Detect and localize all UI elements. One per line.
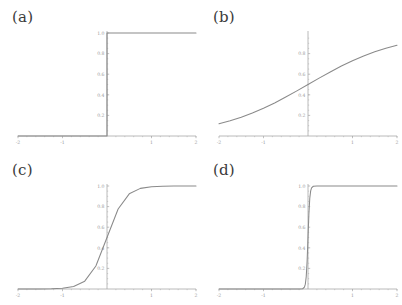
x-tick-label: 2	[396, 140, 399, 145]
x-tick-label: 1	[351, 140, 354, 145]
panel-c-plot: -2-1120.20.40.60.81.0	[0, 153, 201, 305]
x-tick-label: -2	[217, 293, 222, 298]
x-tick-label: -1	[261, 140, 266, 145]
x-tick-label: -2	[16, 140, 21, 145]
x-tick-label: 1	[150, 140, 153, 145]
x-tick-label: 1	[351, 293, 354, 298]
y-tick-label: 0.2	[298, 113, 305, 118]
x-tick-label: 2	[195, 140, 198, 145]
x-tick-label: -1	[60, 140, 65, 145]
y-tick-label: 0.6	[97, 225, 104, 230]
x-tick-label: -2	[217, 140, 222, 145]
panel-c: (c) -2-1120.20.40.60.81.0	[0, 153, 201, 305]
y-tick-label: 0.8	[298, 204, 305, 209]
x-tick-label: 2	[195, 293, 198, 298]
y-tick-label: 0.2	[298, 266, 305, 271]
panel-b: (b) -2-1120.20.40.60.8	[201, 0, 402, 152]
panel-b-plot: -2-1120.20.40.60.8	[201, 0, 402, 152]
x-tick-label: -1	[261, 293, 266, 298]
y-tick-label: 0.8	[97, 51, 104, 56]
y-tick-label: 0.8	[298, 51, 305, 56]
y-tick-label: 0.4	[298, 246, 305, 251]
y-tick-label: 0.4	[97, 93, 104, 98]
y-tick-label: 0.2	[97, 266, 104, 271]
y-tick-label: 0.6	[97, 72, 104, 77]
x-tick-label: 1	[150, 293, 153, 298]
panel-d-plot: -2-1120.20.40.60.81.0	[201, 153, 402, 305]
panel-a: (a) -2-1120.20.40.60.81.0	[0, 0, 201, 152]
curve-step	[18, 33, 196, 136]
y-tick-label: 1.0	[97, 184, 104, 189]
y-tick-label: 0.6	[298, 72, 305, 77]
y-tick-label: 0.4	[298, 93, 305, 98]
x-tick-label: 2	[396, 293, 399, 298]
x-tick-label: -2	[16, 293, 21, 298]
panel-a-plot: -2-1120.20.40.60.81.0	[0, 0, 201, 152]
y-tick-label: 0.8	[97, 204, 104, 209]
figure-sigmoid-panels: (a) -2-1120.20.40.60.81.0 (b) -2-1120.20…	[0, 0, 402, 305]
panel-d: (d) -2-1120.20.40.60.81.0	[201, 153, 402, 305]
y-tick-label: 1.0	[298, 184, 305, 189]
y-tick-label: 0.2	[97, 113, 104, 118]
y-tick-label: 0.6	[298, 225, 305, 230]
y-tick-label: 1.0	[97, 31, 104, 36]
x-tick-label: -1	[60, 293, 65, 298]
